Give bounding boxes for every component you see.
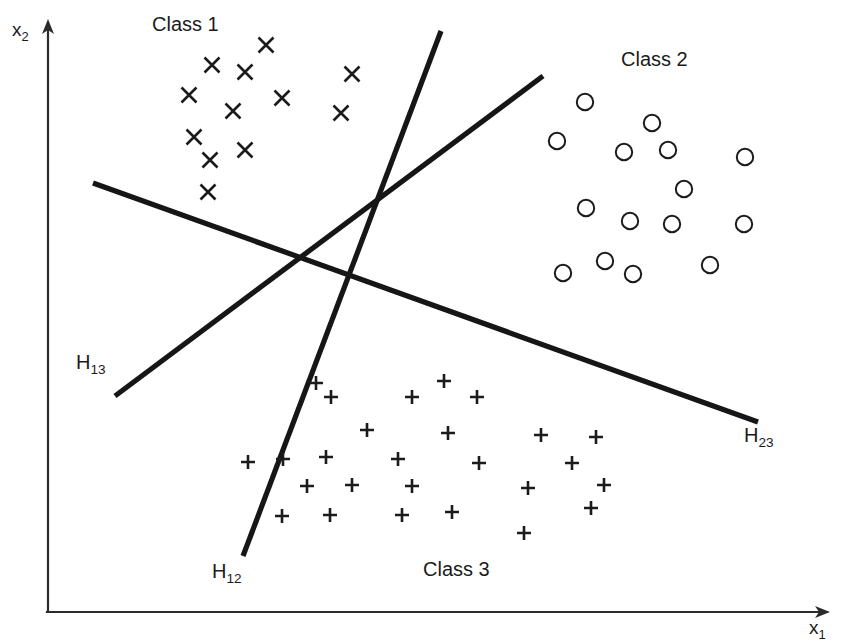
marker-circle — [549, 133, 565, 149]
marker-cross — [226, 104, 241, 119]
marker-plus — [445, 505, 459, 519]
marker-plus — [391, 452, 405, 466]
boundary-line-h12 — [243, 31, 441, 556]
series-class-3 — [241, 374, 611, 540]
marker-plus — [517, 526, 531, 540]
marker-circle — [578, 200, 594, 216]
marker-cross — [238, 65, 253, 80]
marker-cross — [182, 88, 197, 103]
data-markers-layer — [182, 38, 754, 541]
y-axis-label: x2 — [12, 20, 29, 44]
marker-cross — [275, 91, 290, 106]
marker-cross — [203, 153, 218, 168]
marker-circle — [676, 181, 692, 197]
marker-plus — [472, 456, 486, 470]
marker-circle — [577, 94, 593, 110]
marker-plus — [300, 479, 314, 493]
marker-plus — [405, 479, 419, 493]
marker-plus — [275, 509, 289, 523]
boundary-line-h23 — [93, 183, 758, 422]
boundary-label-h13-base: H — [76, 351, 90, 373]
marker-plus — [597, 478, 611, 492]
marker-cross — [345, 67, 360, 82]
marker-cross — [334, 106, 349, 121]
marker-cross — [205, 58, 220, 73]
marker-cross — [187, 130, 202, 145]
marker-circle — [622, 213, 638, 229]
marker-circle — [644, 115, 660, 131]
axes-group — [42, 19, 830, 618]
marker-plus — [405, 390, 419, 404]
marker-circle — [737, 149, 753, 165]
marker-circle — [555, 265, 571, 281]
marker-plus — [395, 508, 409, 522]
marker-plus — [534, 428, 548, 442]
y-axis-label-base: x — [12, 19, 22, 40]
x-axis-label-subscript: 1 — [819, 627, 826, 642]
marker-circle — [616, 144, 632, 160]
marker-plus — [584, 501, 598, 515]
x-axis-label: x1 — [809, 618, 826, 642]
marker-plus — [521, 481, 535, 495]
boundary-label-h13: H13 — [76, 352, 106, 377]
boundary-line-h13 — [115, 76, 543, 396]
marker-cross — [259, 38, 274, 53]
boundary-label-h13-subscript: 13 — [90, 362, 105, 377]
marker-plus — [360, 423, 374, 437]
marker-circle — [664, 216, 680, 232]
boundary-label-h12-subscript: 12 — [226, 571, 241, 586]
marker-plus — [565, 456, 579, 470]
marker-circle — [660, 142, 676, 158]
marker-plus — [441, 426, 455, 440]
marker-circle — [702, 257, 718, 273]
boundary-label-h23-base: H — [744, 424, 758, 446]
plot-canvas — [0, 0, 845, 644]
boundary-label-h12-base: H — [212, 560, 226, 582]
decision-boundaries-group — [93, 31, 758, 556]
marker-plus — [589, 430, 603, 444]
marker-cross — [238, 143, 253, 158]
marker-plus — [241, 455, 255, 469]
class-1-label: Class 1 — [152, 14, 219, 34]
x-axis-label-base: x — [809, 617, 819, 638]
series-class-1 — [182, 38, 360, 200]
marker-plus — [319, 450, 333, 464]
class-3-label: Class 3 — [423, 559, 490, 579]
marker-cross — [201, 185, 216, 200]
series-class-2 — [549, 94, 753, 282]
boundary-label-h23-subscript: 23 — [758, 435, 773, 450]
marker-circle — [597, 253, 613, 269]
marker-circle — [625, 266, 641, 282]
marker-plus — [324, 390, 338, 404]
boundary-label-h23: H23 — [744, 425, 774, 450]
marker-plus — [437, 374, 451, 388]
marker-circle — [736, 216, 752, 232]
class-2-label: Class 2 — [621, 49, 688, 69]
marker-plus — [323, 508, 337, 522]
classification-figure: Class 1 Class 2 Class 3 x2 x1 H13 H12 H2… — [0, 0, 845, 644]
marker-plus — [470, 390, 484, 404]
marker-plus — [345, 478, 359, 492]
y-axis-label-subscript: 2 — [22, 29, 29, 44]
boundary-label-h12: H12 — [212, 561, 242, 586]
